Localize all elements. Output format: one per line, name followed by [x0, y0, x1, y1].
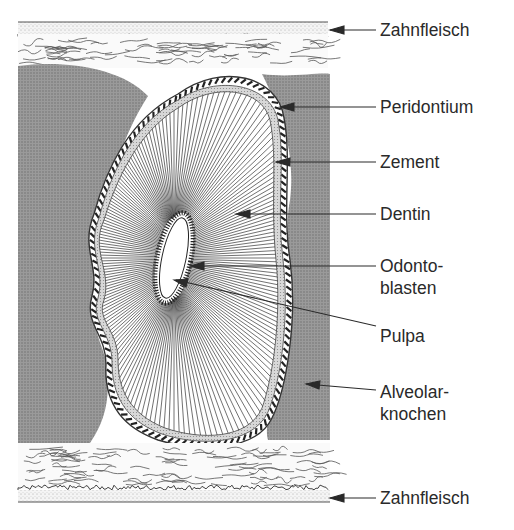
periodontal-fiber: [263, 92, 269, 93]
label-alveolarknochen-line1: Alveolar-: [380, 382, 449, 402]
arrowhead-zahnfleisch-bottom: [330, 494, 344, 502]
periodontal-fiber: [265, 419, 267, 425]
gum-bottom: [18, 443, 347, 502]
label-alveolarknochen-line2: knochen: [380, 404, 446, 424]
periodontal-fiber: [191, 87, 192, 93]
periodontal-fiber: [250, 432, 251, 438]
arrowhead-zahnfleisch-top: [330, 26, 344, 34]
periodontal-fiber: [256, 428, 257, 434]
label-dentin: Dentin: [380, 204, 431, 224]
periodontal-fiber: [131, 423, 137, 424]
periodontal-fiber: [126, 419, 132, 420]
periodontal-fiber: [272, 102, 278, 103]
periodontal-fiber: [114, 403, 120, 404]
periodontal-fiber: [117, 409, 123, 410]
label-peridontium: Peridontium: [380, 97, 473, 117]
label-odontoblasten-line1: Odonto-: [380, 256, 443, 276]
label-zahnfleisch-bottom: Zahnfleisch: [380, 488, 470, 508]
label-zement: Zement: [380, 152, 439, 172]
label-zahnfleisch-top: Zahnfleisch: [380, 20, 470, 40]
gum-top: [18, 22, 340, 68]
label-pulpa: Pulpa: [380, 326, 425, 346]
label-odontoblasten-line2: blasten: [380, 278, 436, 298]
periodontal-fiber: [100, 335, 106, 337]
